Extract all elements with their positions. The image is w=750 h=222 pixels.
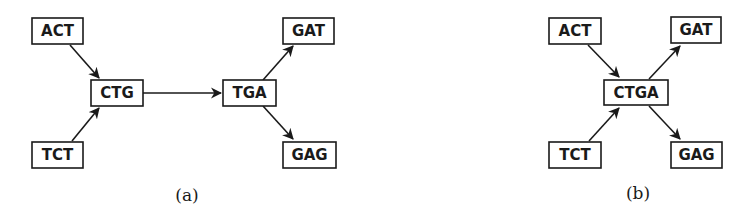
node-label: GAT: [292, 22, 326, 40]
node-tct: TCT: [32, 142, 83, 168]
node-label: TCT: [559, 146, 591, 164]
edge-tct-ctg: [72, 108, 99, 141]
node-gag: GAG: [283, 142, 336, 168]
node-ctga: CTGA: [604, 80, 668, 105]
caption-a: (a): [175, 185, 198, 205]
node-label: TCT: [42, 146, 74, 164]
node-label: GAG: [291, 146, 327, 164]
edge-ctga-gag: [649, 106, 680, 139]
caption-b: (b): [626, 183, 650, 203]
node-tga: TGA: [223, 80, 276, 106]
edge-ctga-gat: [649, 46, 680, 79]
diagram-canvas: ACT TCT CTG TGA GAT GAG (a): [0, 0, 750, 222]
edge-act-ctga: [588, 45, 619, 77]
node-gat: GAT: [283, 18, 334, 44]
node-act: ACT: [32, 18, 83, 44]
node-label: ACT: [41, 22, 75, 40]
edge-tga-gag: [263, 106, 293, 139]
node-label: CTG: [100, 84, 134, 102]
node-label: GAT: [680, 21, 714, 39]
node-tct: TCT: [549, 142, 601, 168]
figure-a: ACT TCT CTG TGA GAT GAG (a): [32, 18, 336, 205]
node-act: ACT: [549, 18, 601, 44]
node-label: CTGA: [613, 84, 659, 102]
node-gag: GAG: [671, 142, 722, 168]
node-label: TGA: [232, 84, 267, 102]
edge-tct-ctga: [589, 108, 619, 141]
figure-b: ACT TCT CTGA GAT GAG (b): [549, 17, 722, 203]
node-label: ACT: [559, 22, 593, 40]
node-label: GAG: [678, 146, 714, 164]
node-gat: GAT: [671, 17, 721, 43]
node-ctg: CTG: [91, 80, 143, 106]
edge-tga-gat: [263, 46, 293, 80]
edge-act-ctg: [70, 45, 99, 78]
